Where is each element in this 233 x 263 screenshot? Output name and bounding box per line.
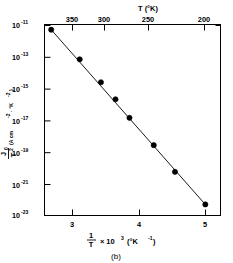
y-axis-denominator-sup: 2 (8, 148, 14, 151)
top-axis-ticks (73, 25, 205, 31)
data-point (113, 97, 118, 102)
y-tick-label-m11: 10 -11 (12, 19, 28, 30)
top-axis-title: T (°K) (138, 4, 158, 13)
plot-frame (45, 25, 221, 216)
x-axis-times-exponent: 3 (121, 235, 124, 241)
x-tick-label-4: 4 (137, 220, 142, 229)
y-tick-exp-m11: -11 (21, 19, 28, 25)
y-tick-exp-m21: -21 (21, 179, 28, 185)
y-axis-units-close: ) (8, 89, 14, 91)
y-tick-exp-m13: -13 (21, 51, 28, 57)
top-axis-ticklabels: 350 300 250 200 (66, 15, 210, 24)
data-point (127, 115, 132, 120)
y-tick-exp-m19: -19 (21, 147, 28, 153)
bottom-axis-ticklabels: 3 4 5 (70, 220, 207, 229)
top-tick-label-300: 300 (98, 15, 110, 24)
data-point (203, 202, 208, 207)
left-axis-ticklabels: 10 -11 10 -13 10 -15 10 -17 10 -19 10 -2… (12, 19, 28, 220)
y-tick-base-m23: 10 (12, 211, 20, 220)
data-point (151, 143, 156, 148)
figure-caption: (b) (111, 252, 121, 261)
left-axis-ticks (45, 26, 51, 216)
data-point (98, 80, 103, 85)
y-axis-numerator: J (0, 152, 8, 156)
y-axis-units-mid: · °K (8, 103, 14, 112)
y-axis-units-exp2: -2 (5, 92, 11, 97)
x-axis-units-exponent: -1 (148, 235, 153, 241)
x-axis-times: × 10 (100, 237, 115, 246)
x-axis-units-close: ) (153, 237, 156, 246)
bottom-axis-ticks (73, 210, 206, 216)
x-tick-label-3: 3 (70, 220, 74, 229)
data-point (77, 57, 82, 62)
y-tick-label-m21: 10 -21 (12, 179, 28, 190)
top-tick-label-200: 200 (198, 15, 210, 24)
x-axis-title: 1 T × 10 3 (°K -1 ) (87, 231, 156, 249)
y-axis-units-open: (A cm (8, 130, 14, 145)
data-point (172, 169, 177, 174)
y-tick-base-m13: 10 (12, 53, 20, 62)
right-axis-ticks (216, 26, 221, 216)
y-tick-label-m23: 10 -23 (12, 209, 28, 220)
figure-container: T (°K) 350 300 250 200 3 4 5 (0, 0, 233, 263)
x-tick-label-5: 5 (203, 220, 207, 229)
y-tick-label-m13: 10 -13 (12, 51, 28, 62)
y-tick-label-m17: 10 -17 (12, 115, 28, 126)
y-tick-base-m11: 10 (12, 21, 20, 30)
y-tick-exp-m17: -17 (21, 115, 28, 121)
y-tick-exp-m23: -23 (21, 209, 28, 215)
y-tick-label-m15: 10 -15 (12, 83, 28, 94)
data-point (49, 27, 54, 32)
top-tick-label-350: 350 (66, 15, 78, 24)
y-tick-exp-m15: -15 (21, 83, 28, 89)
top-tick-label-250: 250 (142, 15, 154, 24)
y-tick-base-m17: 10 (12, 117, 20, 126)
x-axis-numerator: 1 (89, 231, 93, 240)
y-axis-denominator: T (9, 152, 18, 157)
y-axis-units-exp1: -2 (5, 113, 11, 118)
y-tick-base-m21: 10 (12, 181, 20, 190)
arrhenius-plot: T (°K) 350 300 250 200 3 4 5 (0, 0, 233, 263)
x-axis-denominator: T (89, 240, 94, 249)
x-axis-units: (°K (127, 237, 138, 246)
data-series (49, 27, 208, 207)
